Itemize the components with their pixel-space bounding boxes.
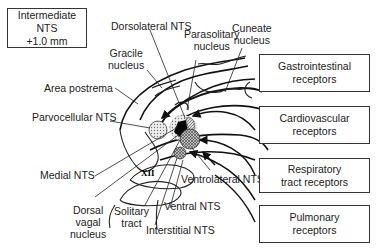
box-line: tract receptors [281,176,348,189]
section-level: +1.0 mm [26,35,67,48]
box-line: Cardiovascular [279,112,349,125]
label-dorsolateral-nts: Dorsolateral NTS [111,20,192,32]
label-interstitial-nts: Interstitial NTS [146,224,215,236]
label-line: vagal [70,216,106,228]
box-line: receptors [293,125,337,138]
label-ventrolateral-nts: Ventrolateral NTS [181,173,264,185]
label-line: Cuneate [232,22,272,34]
receptor-box-cardiovascular: Cardiovascular receptors [259,106,370,144]
receptor-box-pulmonary: Pulmonary receptors [259,205,370,243]
label-parvocellular-nts: Parvocellular NTS [32,111,117,123]
label-line: tract [114,217,149,229]
label-line: Dorsal [70,204,106,216]
label-line: Gracile [108,47,144,59]
box-line: Gastrointestinal [278,60,351,73]
label-line: nucleus [108,59,144,71]
box-line: Pulmonary [289,211,339,224]
label-medial-nts: Medial NTS [40,169,95,181]
label-line: nucleus [232,34,272,46]
section-title: Intermediate NTS [8,9,86,35]
box-line: receptors [293,224,337,237]
section-level-box: Intermediate NTS +1.0 mm [7,8,87,48]
label-gracile-nucleus: Gracile nucleus [108,47,144,71]
box-line: receptors [293,73,337,86]
label-dorsal-vagal-nucleus: Dorsal vagal nucleus [70,204,106,240]
label-solitary-tract: Solitary tract [114,205,149,229]
label-area-postrema: Area postrema [44,82,113,94]
label-cuneate-nucleus: Cuneate nucleus [232,22,272,46]
label-ventral-nts: Ventral NTS [164,200,221,212]
label-line: nucleus [70,228,106,240]
svg-text:XII: XII [141,168,155,178]
box-line: Respiratory [288,163,342,176]
receptor-box-gastrointestinal: Gastrointestinal receptors [259,54,370,92]
label-line: Solitary [114,205,149,217]
receptor-box-respiratory-tract: Respiratory tract receptors [259,158,370,193]
